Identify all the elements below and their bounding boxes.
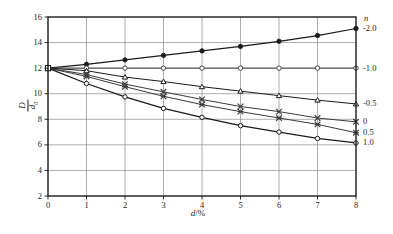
- marker-open-circle: [200, 115, 204, 119]
- y-axis-tick-label: 12: [22, 64, 42, 73]
- marker-open-circle: [84, 81, 88, 85]
- marker-filled-circle: [161, 53, 165, 57]
- y-axis-tick-label: 16: [22, 13, 42, 22]
- x-axis-tick-label: 8: [348, 201, 364, 210]
- marker-filled-circle: [277, 39, 281, 43]
- marker-triangle: [122, 75, 127, 80]
- marker-filled-circle: [200, 49, 204, 53]
- y-axis-tick-label: 4: [22, 166, 42, 175]
- x-axis-title: d/%: [175, 209, 221, 218]
- marker-open-circle: [277, 130, 281, 134]
- y-axis-title-numerator: D: [18, 100, 27, 112]
- marker-triangle: [315, 98, 320, 103]
- y-axis-tick-label: 8: [22, 115, 42, 124]
- right-axis-series-label: -1.0: [363, 64, 389, 73]
- y-axis-title-denominator: d0: [28, 100, 40, 112]
- y-axis-tick-label: 14: [22, 38, 42, 47]
- right-axis-series-label: -0.5: [363, 99, 389, 108]
- marker-open-circle: [161, 66, 165, 70]
- y-axis-tick-label: 2: [22, 192, 42, 201]
- x-axis-tick-label: 7: [310, 201, 326, 210]
- marker-triangle: [161, 79, 166, 84]
- right-axis-series-label: 0: [363, 117, 389, 126]
- y-axis-tick-label: 10: [22, 89, 42, 98]
- marker-triangle: [238, 89, 243, 94]
- marker-open-circle: [315, 66, 319, 70]
- x-axis-tick-label: 4: [194, 201, 210, 210]
- x-axis-tick-label: 5: [233, 201, 249, 210]
- axis-ticks: [45, 17, 357, 200]
- marker-filled-circle: [315, 33, 319, 37]
- x-axis-tick-label: 3: [156, 201, 172, 210]
- marker-filled-circle: [123, 58, 127, 62]
- marker-open-circle: [123, 95, 127, 99]
- marker-filled-circle: [238, 44, 242, 48]
- marker-open-circle: [277, 66, 281, 70]
- x-axis-tick-label: 1: [79, 201, 95, 210]
- marker-triangle: [199, 84, 204, 89]
- right-axis-title: n: [364, 14, 368, 23]
- chart-plot-area: [0, 0, 393, 234]
- x-axis-tick-label: 2: [117, 201, 133, 210]
- right-axis-series-label: 1.0: [363, 138, 389, 147]
- marker-open-circle: [161, 106, 165, 110]
- marker-open-circle: [315, 136, 319, 140]
- right-axis-series-label: 0.5: [363, 128, 389, 137]
- grid-lines: [48, 17, 356, 196]
- marker-open-circle: [238, 123, 242, 127]
- chart-figure: D d0 d/% n 246810121416012345678-2.0-1.0…: [0, 0, 393, 234]
- marker-open-circle: [123, 66, 127, 70]
- marker-open-circle: [238, 66, 242, 70]
- x-axis-tick-label: 0: [40, 201, 56, 210]
- marker-open-circle: [200, 66, 204, 70]
- x-axis-tick-label: 6: [271, 201, 287, 210]
- right-axis-series-label: -2.0: [363, 24, 389, 33]
- y-axis-tick-label: 6: [22, 140, 42, 149]
- data-series: [46, 66, 358, 70]
